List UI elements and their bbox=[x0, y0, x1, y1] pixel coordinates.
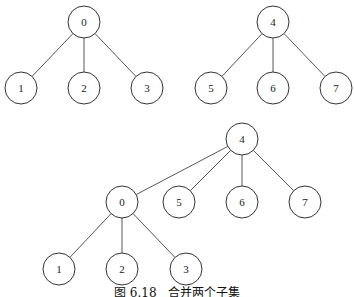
svg-text:3: 3 bbox=[183, 263, 189, 275]
diagram-canvas: 0123456740567123 图 6.18 合并两个子集 bbox=[0, 0, 354, 297]
svg-text:7: 7 bbox=[302, 196, 308, 208]
node-0: 0 bbox=[106, 186, 138, 218]
node-2: 2 bbox=[68, 72, 100, 104]
node-5: 5 bbox=[163, 186, 195, 218]
node-1: 1 bbox=[5, 72, 37, 104]
svg-text:6: 6 bbox=[239, 196, 245, 208]
svg-text:6: 6 bbox=[270, 82, 276, 94]
node-6: 6 bbox=[226, 186, 258, 218]
svg-text:5: 5 bbox=[176, 196, 182, 208]
svg-text:4: 4 bbox=[270, 16, 276, 28]
svg-text:0: 0 bbox=[81, 16, 87, 28]
edge-0-1 bbox=[32, 34, 73, 77]
figure-caption: 图 6.18 合并两个子集 bbox=[0, 283, 354, 297]
edge-4-5 bbox=[190, 150, 230, 190]
svg-text:4: 4 bbox=[239, 133, 245, 145]
tree-subset-0: 0123 bbox=[5, 6, 163, 104]
svg-text:1: 1 bbox=[56, 263, 62, 275]
edge-4-5 bbox=[222, 34, 262, 77]
svg-text:7: 7 bbox=[333, 82, 339, 94]
svg-text:3: 3 bbox=[144, 82, 150, 94]
svg-text:1: 1 bbox=[18, 82, 24, 94]
tree-diagram: 0123456740567123 bbox=[0, 0, 354, 297]
node-3: 3 bbox=[131, 72, 163, 104]
node-0: 0 bbox=[68, 6, 100, 38]
node-2: 2 bbox=[106, 253, 138, 285]
node-4: 4 bbox=[226, 123, 258, 155]
node-7: 7 bbox=[320, 72, 352, 104]
edge-0-3 bbox=[95, 34, 136, 77]
node-4: 4 bbox=[257, 6, 289, 38]
edge-4-7 bbox=[284, 34, 325, 77]
edge-4-7 bbox=[253, 150, 293, 190]
node-1: 1 bbox=[43, 253, 75, 285]
node-6: 6 bbox=[257, 72, 289, 104]
node-3: 3 bbox=[170, 253, 202, 285]
svg-text:0: 0 bbox=[119, 196, 125, 208]
svg-text:2: 2 bbox=[119, 263, 125, 275]
tree-merged: 40567123 bbox=[43, 123, 321, 285]
edge-0-1 bbox=[70, 214, 111, 258]
node-7: 7 bbox=[289, 186, 321, 218]
edge-0-3 bbox=[133, 214, 175, 258]
tree-subset-4: 4567 bbox=[195, 6, 352, 104]
node-5: 5 bbox=[195, 72, 227, 104]
svg-text:2: 2 bbox=[81, 82, 87, 94]
svg-text:5: 5 bbox=[208, 82, 214, 94]
